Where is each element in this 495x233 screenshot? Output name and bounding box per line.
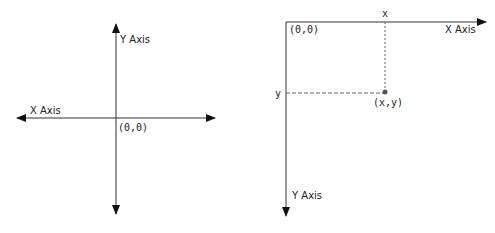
- point-label: (x,y): [373, 97, 403, 108]
- cartesian-x-axis-label: X Axis: [30, 105, 61, 116]
- screen-diagram: X Axis Y Axis (0,0) x y (x,y): [275, 8, 486, 216]
- point-marker: [383, 90, 388, 95]
- cartesian-diagram: Y Axis X Axis (0,0): [17, 24, 215, 214]
- screen-x-axis-label: X Axis: [445, 24, 476, 35]
- y-tick-label: y: [275, 88, 281, 99]
- cartesian-y-axis-label: Y Axis: [119, 34, 150, 45]
- cartesian-origin-label: (0,0): [118, 122, 148, 133]
- screen-y-axis-label: Y Axis: [291, 190, 322, 201]
- screen-origin-label: (0,0): [289, 24, 319, 35]
- x-tick-label: x: [382, 8, 388, 19]
- coordinate-diagrams: Y Axis X Axis (0,0) X Axis Y Axis (0,0) …: [0, 0, 495, 233]
